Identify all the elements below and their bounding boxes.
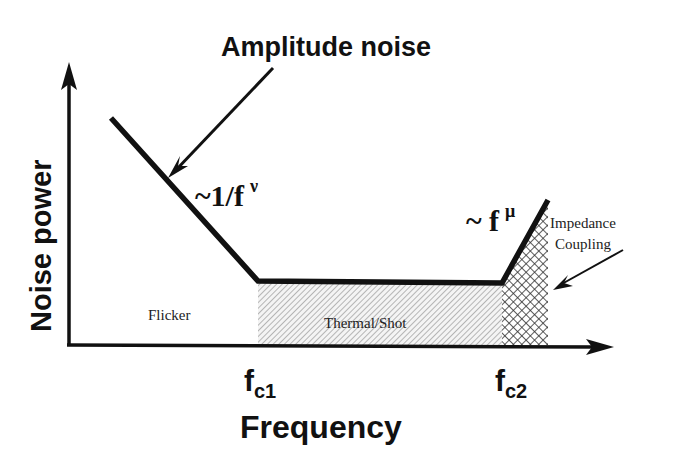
- x-axis-label: Frequency: [240, 409, 402, 445]
- thermal-shot-region: [258, 283, 502, 345]
- noise-curve: [111, 118, 548, 283]
- low-freq-slope-label: ~1/fν: [195, 176, 258, 212]
- amplitude-noise-arrow: [168, 68, 273, 178]
- impedance-label-line1: Impedance: [550, 215, 616, 231]
- fc2-label: fc2: [495, 364, 527, 402]
- impedance-label-line2: Coupling: [555, 236, 611, 252]
- thermal-shot-label: Thermal/Shot: [324, 315, 407, 331]
- fc1-label: fc1: [244, 364, 276, 402]
- flicker-label: Flicker: [148, 307, 191, 323]
- impedance-arrow: [553, 250, 623, 290]
- y-axis-label: Noise power: [25, 160, 57, 332]
- y-axis: [61, 62, 77, 346]
- high-freq-slope-label: ~ fμ: [466, 201, 515, 237]
- noise-spectrum-diagram: Amplitude noise Noise power Frequency fc…: [0, 0, 694, 467]
- title-amplitude-noise: Amplitude noise: [221, 32, 431, 62]
